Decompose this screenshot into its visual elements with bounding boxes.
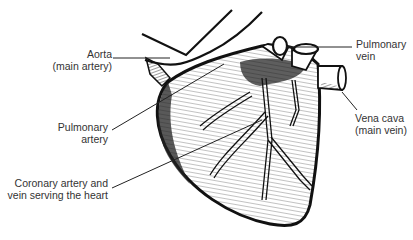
label-pulmonary-artery-line2: artery <box>58 133 108 145</box>
label-coronary-line2: vein serving the heart <box>8 189 108 201</box>
label-aorta: Aorta (main artery) <box>52 48 112 72</box>
vena-cava-vessel <box>318 66 346 90</box>
label-vena-cava-line2: (main vein) <box>355 124 407 136</box>
label-aorta-line2: (main artery) <box>52 60 112 72</box>
label-vena-cava-line1: Vena cava <box>355 112 407 124</box>
label-vena-cava: Vena cava (main vein) <box>355 112 407 136</box>
label-pulmonary-vein-line2: vein <box>356 50 406 62</box>
label-coronary-line1: Coronary artery and <box>8 177 108 189</box>
label-coronary: Coronary artery and vein serving the hea… <box>8 177 108 201</box>
heart-diagram: Aorta (main artery) Pulmonary artery Cor… <box>0 0 413 240</box>
label-pulmonary-vein: Pulmonary vein <box>356 38 406 62</box>
heart-illustration <box>0 0 413 240</box>
label-pulmonary-artery-line1: Pulmonary <box>58 121 108 133</box>
label-pulmonary-artery: Pulmonary artery <box>58 121 108 145</box>
label-aorta-line1: Aorta <box>52 48 112 60</box>
label-pulmonary-vein-line1: Pulmonary <box>356 38 406 50</box>
